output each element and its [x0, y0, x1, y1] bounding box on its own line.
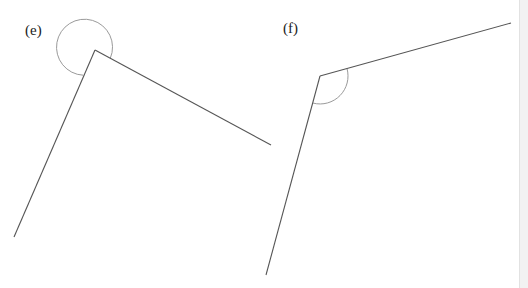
figure-e-arm-right: [95, 50, 271, 145]
figure-f-arm-right: [320, 23, 511, 76]
figure-e: (e): [14, 19, 271, 237]
figure-f-label: (f): [283, 20, 298, 37]
figure-e-label: (e): [25, 22, 42, 39]
figure-e-reflex-angle-marker: [57, 19, 113, 75]
figure-e-arm-left: [14, 50, 95, 237]
figure-f-obtuse-angle-marker: [313, 69, 348, 104]
figure-f: (f): [266, 20, 511, 275]
figure-f-arm-left: [266, 76, 320, 275]
